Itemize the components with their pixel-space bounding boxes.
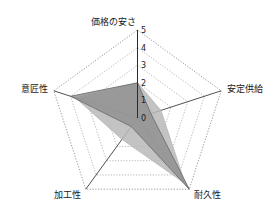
radar-chart-container: 5 4 3 2 1 0 価格の安さ 安定供給 耐久性 加工性 意匠性 (0, 0, 275, 200)
axis-label-ishousei: 意匠性 (21, 83, 48, 94)
axis-label-taikyusei: 耐久性 (194, 189, 221, 200)
series-polygons (71, 83, 190, 189)
axis-label-kakaku-no-yasusa: 価格の安さ (91, 16, 136, 27)
tick-label-5: 5 (141, 26, 146, 35)
tick-label-3: 3 (141, 61, 146, 70)
axis-label-kakousei: 加工性 (54, 189, 81, 200)
tick-label-1: 1 (141, 96, 146, 105)
tick-label-4: 4 (141, 44, 146, 53)
tick-label-0: 0 (141, 114, 146, 123)
tick-label-2: 2 (141, 79, 146, 88)
axis-label-antei-kyokyu: 安定供給 (227, 83, 263, 94)
radar-chart-svg: 5 4 3 2 1 0 価格の安さ 安定供給 耐久性 加工性 意匠性 (0, 0, 275, 200)
